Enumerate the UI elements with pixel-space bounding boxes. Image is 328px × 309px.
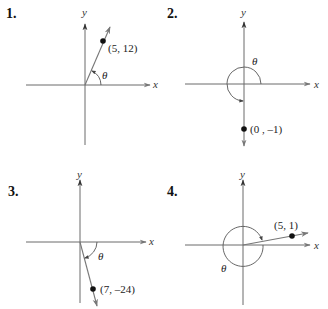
problem-number: 3.	[8, 184, 19, 199]
panel-4: 4. y x (5, 1) θ	[167, 168, 319, 305]
panel-2: 2. y x θ (0 , –1)	[167, 6, 319, 146]
x-axis-label: x	[152, 78, 158, 90]
y-axis-label: y	[76, 168, 82, 180]
angle-label: θ	[221, 262, 227, 274]
angle-arc	[85, 242, 97, 258]
y-axis-label: y	[81, 6, 87, 18]
x-axis-label: x	[313, 78, 319, 90]
y-axis-label: y	[240, 6, 246, 18]
panel-1: 1. y x (5, 12) θ	[6, 6, 158, 145]
problem-number: 4.	[167, 184, 178, 199]
point-label: (5, 1)	[274, 219, 298, 232]
angle-label: θ	[98, 250, 104, 262]
panel-3: 3. y x (7, –24) θ	[8, 168, 154, 306]
angle-label: θ	[102, 69, 108, 81]
point-marker	[289, 233, 295, 239]
angle-arc	[92, 71, 101, 85]
point-label: (5, 12)	[108, 42, 138, 55]
y-axis-label: y	[239, 168, 245, 180]
diagram-canvas: 1. y x (5, 12) θ 2. y x θ (0 , –1) 3. y …	[0, 0, 328, 309]
terminal-ray	[80, 242, 97, 306]
x-axis-label: x	[313, 239, 319, 251]
point-label: (7, –24)	[100, 283, 135, 296]
point-marker	[241, 126, 247, 132]
point-label: (0 , –1)	[250, 123, 282, 136]
angle-label: θ	[252, 55, 258, 67]
point-marker	[100, 38, 106, 44]
x-axis-label: x	[148, 235, 154, 247]
problem-number: 1.	[6, 6, 17, 21]
problem-number: 2.	[167, 6, 178, 21]
terminal-ray	[243, 233, 308, 245]
point-marker	[90, 286, 96, 292]
